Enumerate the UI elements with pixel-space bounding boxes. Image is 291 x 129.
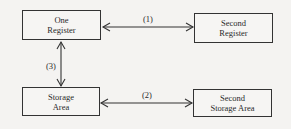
edge-3-label: (3): [46, 61, 56, 71]
node-storage-area: Storage Area: [22, 87, 100, 116]
edge-1-label: (1): [143, 14, 153, 24]
node-second-storage-area: Second Storage Area: [193, 89, 272, 117]
edge-3-arrow: [57, 42, 65, 86]
node-label: Second Register: [219, 18, 247, 38]
node-label: Storage Area: [48, 92, 74, 112]
node-label: Second Storage Area: [210, 93, 254, 113]
node-one-register: One Register: [22, 10, 101, 40]
node-label: One Register: [47, 15, 75, 35]
node-second-register: Second Register: [194, 13, 273, 43]
edge-1-arrow: [103, 23, 193, 31]
edge-2-label: (2): [142, 90, 152, 100]
edge-2-arrow: [101, 99, 192, 107]
